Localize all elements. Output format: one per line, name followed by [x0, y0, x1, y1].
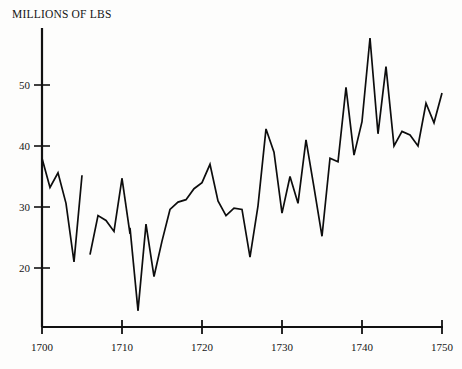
series-line	[42, 158, 82, 262]
x-tick-label: 1700	[31, 341, 54, 353]
y-tick-label: 20	[19, 262, 31, 274]
y-tick-marks: 20304050	[19, 79, 50, 274]
series-line	[122, 178, 130, 234]
x-tick-label: 1720	[191, 341, 214, 353]
x-tick-label: 1710	[111, 341, 134, 353]
chart-figure: MILLIONS OF LBS 20304050 170017101720173…	[0, 0, 462, 369]
y-tick-label: 50	[19, 79, 31, 91]
series-line	[90, 178, 122, 254]
x-tick-marks: 170017101720173017401750	[31, 320, 454, 353]
y-tick-label: 30	[19, 201, 31, 213]
x-tick-label: 1730	[271, 341, 294, 353]
line-chart-plot: 20304050 170017101720173017401750	[0, 0, 462, 369]
axes	[42, 28, 443, 327]
series-line	[130, 228, 138, 311]
data-series	[42, 38, 442, 311]
series-line	[138, 38, 442, 311]
x-tick-label: 1740	[351, 341, 374, 353]
y-tick-label: 40	[19, 140, 31, 152]
x-tick-label: 1750	[431, 341, 454, 353]
